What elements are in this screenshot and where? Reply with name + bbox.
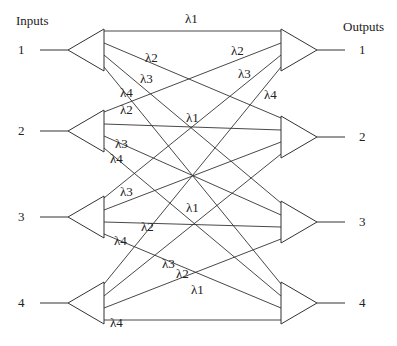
input-label-1: 1	[18, 43, 25, 56]
output-label-4: 4	[359, 296, 366, 309]
output-label-3: 3	[359, 215, 366, 228]
input-label-2: 2	[18, 124, 25, 137]
wavelength-label: λ3	[120, 185, 133, 198]
outputs-header: Outputs	[343, 20, 384, 33]
wavelength-label: λ1	[185, 12, 198, 25]
wavelength-label: λ4	[110, 316, 123, 329]
wavelength-label: λ2	[141, 220, 154, 233]
wavelength-label: λ2	[145, 51, 158, 64]
demux-triangle-2	[68, 110, 104, 152]
input-label-3: 3	[18, 210, 25, 223]
wavelength-label: λ3	[238, 67, 251, 80]
wavelength-label: λ2	[120, 103, 133, 116]
wavelength-label: λ4	[110, 152, 123, 165]
wavelength-label: λ2	[231, 44, 244, 57]
link-in3-out1	[104, 55, 281, 198]
mux-triangle-3	[281, 201, 317, 243]
inputs-header: Inputs	[16, 14, 49, 27]
demux-triangle-4	[68, 282, 104, 324]
wavelength-label: λ4	[264, 88, 277, 101]
wavelength-label: λ1	[191, 283, 204, 296]
mux-triangle-2	[281, 116, 317, 158]
wavelength-label: λ4	[120, 86, 133, 99]
wavelength-label: λ3	[162, 257, 175, 270]
wavelength-connections	[104, 31, 281, 320]
demux-triangle-1	[68, 29, 104, 71]
output-label-2: 2	[359, 130, 366, 143]
wavelength-label: λ4	[114, 234, 127, 247]
demux-triangle-3	[68, 196, 104, 238]
output-label-1: 1	[359, 43, 366, 56]
wavelength-label: λ3	[115, 137, 128, 150]
mux-triangle-1	[281, 29, 317, 71]
wavelength-label: λ2	[176, 267, 189, 280]
wavelength-label: λ1	[186, 111, 199, 124]
wavelength-label: λ1	[186, 201, 199, 214]
wavelength-label: λ3	[140, 72, 153, 85]
mux-triangle-4	[281, 282, 317, 324]
input-label-4: 4	[18, 296, 25, 309]
couplers	[40, 29, 345, 324]
